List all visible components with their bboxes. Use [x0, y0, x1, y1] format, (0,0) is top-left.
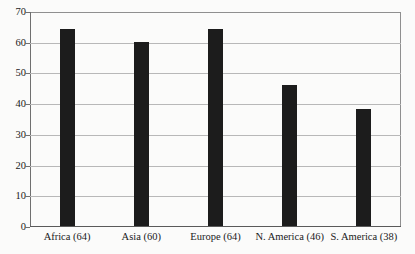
y-axis-labels: 010203040506070 — [0, 12, 26, 227]
bar — [356, 109, 371, 226]
y-axis-tick — [25, 227, 30, 228]
y-axis-tick-label: 20 — [2, 160, 26, 171]
y-axis-tick — [25, 12, 30, 13]
plot-area — [30, 12, 401, 227]
y-axis-tick — [25, 196, 30, 197]
y-axis-line — [30, 12, 31, 227]
bar — [282, 85, 297, 226]
y-axis-tick-label: 10 — [2, 191, 26, 202]
y-axis-tick-label: 40 — [2, 99, 26, 110]
y-axis-tick-label: 70 — [2, 7, 26, 18]
x-axis-line — [30, 226, 401, 227]
y-axis-tick-label: 0 — [2, 222, 26, 233]
x-axis-tick-label: N. America (46) — [255, 232, 324, 243]
y-axis-tick — [25, 73, 30, 74]
y-axis-tick-label: 60 — [2, 37, 26, 48]
x-axis-tick-label: Africa (64) — [44, 232, 91, 243]
bar — [60, 29, 75, 226]
bar — [208, 29, 223, 226]
bar — [134, 42, 149, 226]
y-axis-tick-label: 30 — [2, 130, 26, 141]
x-axis-tick-label: Europe (64) — [190, 232, 240, 243]
plot-top-border — [30, 12, 401, 13]
y-axis-tick — [25, 166, 30, 167]
plot-right-border — [400, 12, 401, 227]
x-axis-tick-label: S. America (38) — [331, 232, 398, 243]
y-axis-tick — [25, 104, 30, 105]
y-axis-tick-label: 50 — [2, 68, 26, 79]
x-axis-tick-label: Asia (60) — [122, 232, 161, 243]
x-axis-labels: Africa (64)Asia (60)Europe (64)N. Americ… — [30, 232, 401, 248]
y-axis-tick — [25, 135, 30, 136]
y-axis-tick — [25, 43, 30, 44]
chart-figure: 010203040506070 Africa (64)Asia (60)Euro… — [0, 0, 415, 254]
